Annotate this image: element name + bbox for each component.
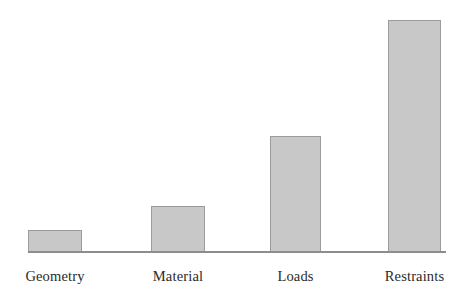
bar-restraints xyxy=(388,20,441,252)
bar-material xyxy=(151,206,205,252)
x-tick-label-geometry: Geometry xyxy=(0,266,120,286)
x-tick-label-restraints: Restraints xyxy=(350,266,466,286)
bar-geometry xyxy=(28,230,82,252)
bar-loads xyxy=(270,136,321,252)
plot-area xyxy=(0,0,466,258)
x-tick-label-loads: Loads xyxy=(231,266,361,286)
x-axis-tick-labels: Geometry Material Loads Restraints xyxy=(0,266,466,294)
bar-chart-figure: Geometry Material Loads Restraints xyxy=(0,0,466,305)
x-axis-line xyxy=(28,251,446,253)
x-tick-label-material: Material xyxy=(113,266,243,286)
